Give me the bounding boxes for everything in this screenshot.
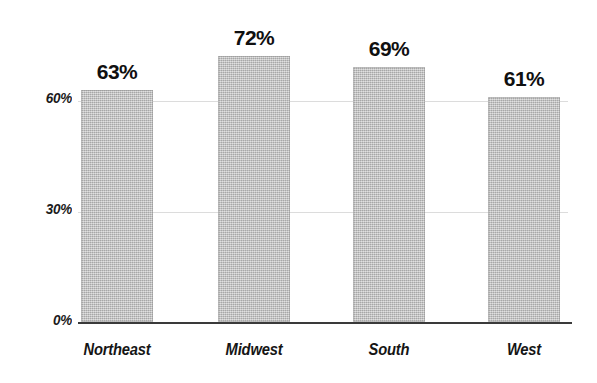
- bar-value-west: 61%: [469, 68, 579, 89]
- plot-area: 60% 30% 0% 63% 72% 69% 61% Northeast Mid…: [0, 0, 597, 383]
- bar-south[interactable]: [353, 67, 425, 322]
- bar-midwest[interactable]: [218, 56, 290, 322]
- bar-value-midwest: 72%: [199, 27, 309, 48]
- bar-west[interactable]: [488, 97, 560, 322]
- category-label-west: West: [460, 341, 589, 359]
- bar-chart: 60% 30% 0% 63% 72% 69% 61% Northeast Mid…: [0, 0, 597, 383]
- category-label-south: South: [325, 341, 454, 359]
- category-label-northeast: Northeast: [53, 341, 182, 359]
- bar-value-northeast: 63%: [62, 61, 172, 82]
- y-tick-label-30: 30%: [9, 201, 72, 216]
- bar-northeast[interactable]: [81, 90, 153, 322]
- y-tick-label-60: 60%: [9, 90, 72, 105]
- axis-baseline-0: [78, 322, 572, 324]
- y-tick-label-0: 0%: [9, 312, 72, 327]
- category-label-midwest: Midwest: [190, 341, 319, 359]
- bar-value-south: 69%: [334, 38, 444, 59]
